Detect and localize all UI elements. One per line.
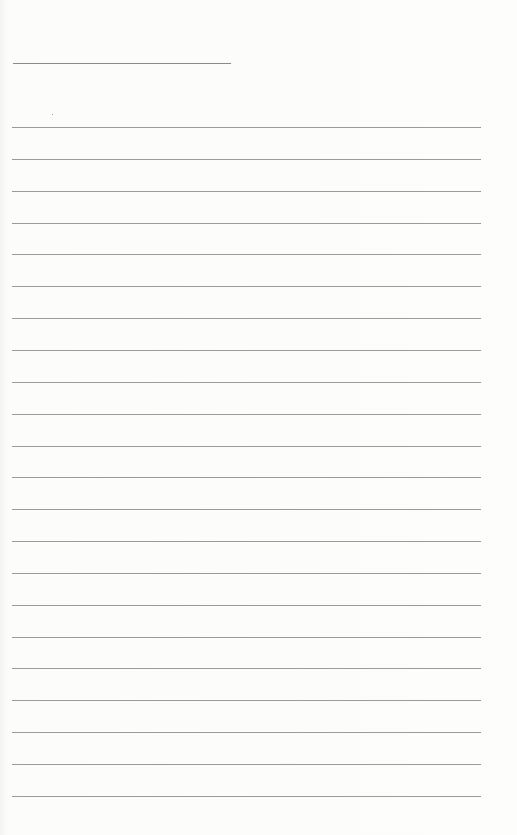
ruled-line [12, 509, 481, 510]
ruled-line [12, 477, 481, 478]
ruled-line [12, 350, 481, 351]
ruled-line [12, 414, 481, 415]
ruled-line [12, 668, 481, 669]
ruled-line [12, 318, 481, 319]
ruled-line [12, 159, 481, 160]
ruled-line [12, 286, 481, 287]
ruled-line [12, 732, 481, 733]
ruled-line [12, 191, 481, 192]
ruled-line [12, 541, 481, 542]
ruled-line [12, 700, 481, 701]
ruled-line [12, 796, 481, 797]
notepaper-page [0, 0, 517, 835]
title-underline [13, 63, 231, 64]
paper-speck [52, 114, 53, 115]
ruled-line [12, 254, 481, 255]
ruled-line [12, 446, 481, 447]
ruled-line [12, 223, 481, 224]
ruled-line [12, 637, 481, 638]
ruled-line [12, 127, 481, 128]
ruled-line [12, 573, 481, 574]
ruled-line [12, 764, 481, 765]
ruled-line [12, 605, 481, 606]
ruled-line [12, 382, 481, 383]
